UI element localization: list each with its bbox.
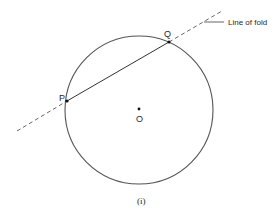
circle-fold-diagram: P Q O Line of fold (i): [0, 0, 280, 219]
center-o-label: O: [136, 114, 143, 124]
point-p-dot: [65, 99, 68, 102]
point-p-label: P: [59, 93, 65, 103]
fold-line-extension-upper: [169, 11, 222, 42]
center-o-dot: [138, 108, 141, 111]
point-q-label: Q: [164, 29, 171, 39]
fold-line-label: Line of fold: [228, 18, 267, 27]
point-q-dot: [167, 40, 170, 43]
figure-caption: (i): [137, 196, 146, 206]
chord-pq: [67, 42, 169, 101]
fold-line-extension-lower: [17, 101, 67, 131]
